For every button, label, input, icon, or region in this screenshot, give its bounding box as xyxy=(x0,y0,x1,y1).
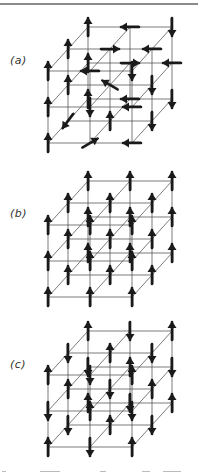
spin-arrow-icon xyxy=(44,61,53,80)
spin-arrow-icon xyxy=(148,265,157,284)
spin-arrow-icon xyxy=(168,18,177,37)
spin-arrow-icon xyxy=(126,322,135,341)
spin-arrow-icon xyxy=(44,215,53,234)
spin-arrow-icon xyxy=(106,415,115,434)
spin-arrow-icon xyxy=(168,393,177,412)
spin-arrow-icon xyxy=(148,379,157,398)
spin-arrow-icon xyxy=(142,45,161,54)
spin-arrow-icon xyxy=(44,97,53,116)
spin-arrow-icon xyxy=(106,380,115,399)
spin-arrow-icon xyxy=(120,23,139,32)
spin-arrow-icon xyxy=(44,437,53,456)
spin-arrow-icon xyxy=(44,365,53,384)
spin-lattice-diagrams xyxy=(0,0,198,474)
spin-arrow-icon xyxy=(84,171,93,190)
spin-arrow-icon xyxy=(101,45,120,54)
lattice-b xyxy=(44,171,177,306)
spin-arrow-icon xyxy=(168,90,177,109)
lattice-a xyxy=(44,17,182,152)
spin-arrow-icon xyxy=(128,437,137,456)
spin-arrow-icon xyxy=(64,193,73,212)
spin-arrow-icon xyxy=(64,75,73,94)
spin-arrow-icon xyxy=(162,59,181,68)
spin-arrow-icon xyxy=(148,229,157,248)
spin-arrow-icon xyxy=(64,416,73,435)
spin-arrow-icon xyxy=(44,402,53,421)
cropped-caption-remnant xyxy=(0,470,198,474)
spin-arrow-icon xyxy=(106,265,115,284)
spin-arrow-icon xyxy=(148,112,157,131)
spin-arrow-icon xyxy=(122,103,141,112)
spin-arrow-icon xyxy=(148,344,157,363)
spin-arrow-icon xyxy=(44,133,53,152)
spin-arrow-icon xyxy=(86,287,95,306)
spin-arrow-icon xyxy=(168,171,177,190)
spin-arrow-icon xyxy=(64,265,73,284)
spin-arrow-icon xyxy=(148,76,157,95)
spin-arrow-icon xyxy=(84,321,93,340)
spin-arrow-icon xyxy=(44,251,53,270)
spin-arrow-icon xyxy=(84,17,93,36)
spin-arrow-icon xyxy=(122,139,141,148)
spin-arrow-icon xyxy=(126,171,135,190)
spin-arrow-icon xyxy=(64,229,73,248)
spin-arrow-icon xyxy=(106,193,115,212)
spin-arrow-icon xyxy=(106,229,115,248)
spin-arrow-icon xyxy=(148,416,157,435)
spin-arrow-icon xyxy=(64,379,73,398)
spin-arrow-icon xyxy=(106,343,115,362)
spin-arrow-icon xyxy=(64,344,73,363)
spin-arrow-icon xyxy=(168,243,177,262)
lattice-c xyxy=(44,321,177,457)
spin-arrow-icon xyxy=(168,321,177,340)
spin-arrow-icon xyxy=(64,39,73,58)
spin-arrow-icon xyxy=(106,111,115,130)
spin-arrow-icon xyxy=(148,193,157,212)
spin-arrow-icon xyxy=(168,207,177,226)
spin-arrow-icon xyxy=(86,438,95,457)
spin-arrow-icon xyxy=(44,287,53,306)
spin-arrow-icon xyxy=(168,358,177,377)
spin-arrow-icon xyxy=(128,287,137,306)
